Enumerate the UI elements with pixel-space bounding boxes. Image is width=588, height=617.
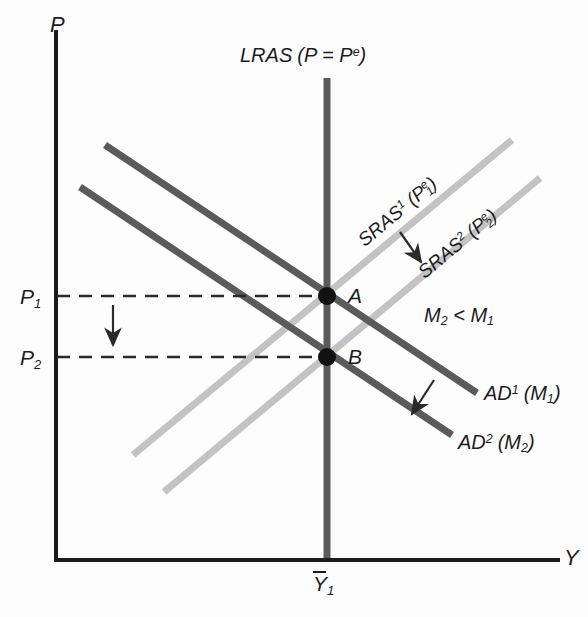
lras-label-p: P [304, 44, 317, 66]
ad2-label-paren: (M [498, 431, 521, 453]
ad1-label: AD1(M1) [484, 383, 561, 406]
money-note-m1-sub: 1 [487, 314, 494, 328]
sras-shift-arrow-icon [400, 232, 421, 262]
price-tick-2: P2 [20, 347, 41, 371]
ad1-label-sup: 1 [512, 383, 519, 397]
ad2-label-sup: 2 [486, 432, 493, 446]
equilibrium-point-b-label: B [348, 346, 362, 367]
price-tick-1: P1 [20, 286, 41, 310]
y-axis-label: P [50, 14, 65, 36]
lras-label-paren-close: ) [360, 44, 367, 66]
money-note-m2: M [424, 304, 441, 326]
money-note-m1: M [470, 304, 487, 326]
equilibrium-point-b-dot [318, 348, 336, 366]
money-note-operator: < [448, 304, 471, 326]
diagram-canvas [0, 0, 588, 617]
x-axis-label: Y [564, 547, 579, 569]
lras-label-pe: P [339, 44, 352, 66]
lras-label: LRAS(P = Pe) [240, 45, 366, 65]
ad-as-diagram: P Y P1 P2 Y1 A B LRAS(P = Pe) SRAS1(Pe1)… [0, 0, 588, 617]
equilibrium-point-a-label: A [348, 285, 362, 306]
output-tick-letter: Y [313, 573, 327, 594]
lras-label-main: LRAS [240, 44, 292, 66]
ad2-label: AD2(M2) [458, 432, 535, 455]
ad2-label-sub: 2 [521, 441, 528, 455]
equilibrium-point-a-dot [318, 287, 336, 305]
money-supply-note: M2 < M1 [424, 305, 494, 328]
lras-label-pe-sup: e [353, 45, 360, 59]
price-tick-2-sub: 2 [34, 357, 41, 372]
output-tick-sub: 1 [327, 583, 334, 598]
price-tick-1-letter: P [20, 285, 34, 308]
ad1-label-main: AD [484, 382, 512, 404]
lras-label-paren-open: ( [297, 44, 304, 66]
ad2-label-close: ) [528, 431, 535, 453]
lras-label-equals: = [317, 44, 340, 66]
price-tick-1-sub: 1 [34, 296, 41, 311]
ad1-label-paren: (M [524, 382, 547, 404]
ad-shift-arrow-icon [412, 380, 434, 414]
ad1-label-sub: 1 [547, 392, 554, 406]
money-note-m2-sub: 2 [441, 314, 448, 328]
price-tick-2-letter: P [20, 346, 34, 369]
ad1-label-close: ) [554, 382, 561, 404]
ad2-label-main: AD [458, 431, 486, 453]
output-tick-full-employment: Y1 [313, 573, 334, 597]
